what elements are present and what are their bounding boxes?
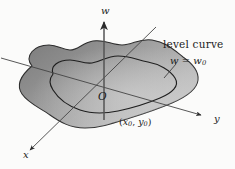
equation-rhs-subscript: 0 [202, 59, 206, 67]
point-label-close: ) [148, 116, 152, 127]
surface-region [19, 40, 198, 128]
axis-label-y: y [214, 114, 220, 124]
equation-relation: = [179, 55, 194, 66]
origin-label: O [98, 91, 107, 102]
equation-rhs: w [193, 55, 202, 66]
level-curve-figure: w y x O (x0, y0) level curve w = w0 [0, 0, 235, 169]
axis-label-w: w [101, 6, 110, 16]
axis-label-x: x [23, 150, 29, 160]
figure-canvas [0, 0, 235, 169]
surface-highlight [19, 40, 198, 128]
level-curve-annotation-equation: w = w0 [170, 56, 206, 67]
equation-lhs: w [170, 55, 179, 66]
level-curve-annotation-title: level curve [163, 39, 223, 50]
point-label: (x0, y0) [119, 117, 151, 128]
